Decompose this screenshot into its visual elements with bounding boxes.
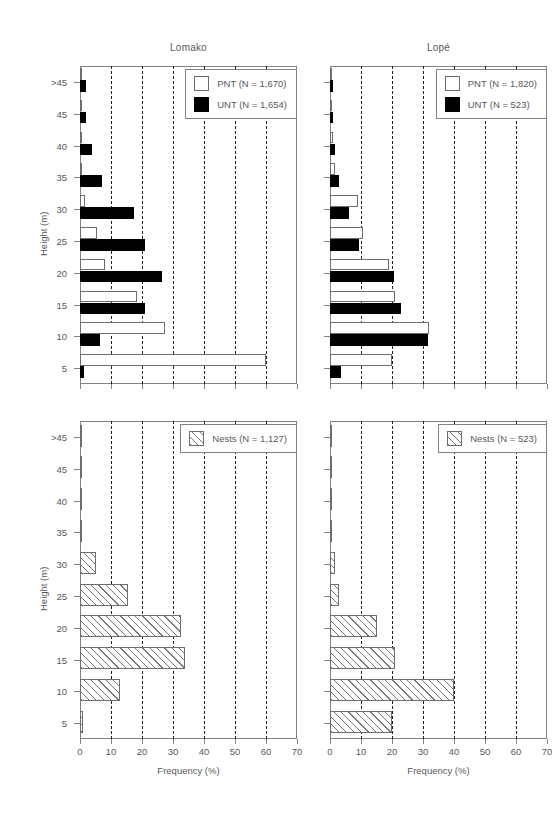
- bar-pnt-10: [330, 322, 429, 334]
- legend-lope-trees[interactable]: PNT (N = 1,820) UNT (N = 523): [436, 69, 547, 119]
- y-tick-label: 30: [56, 204, 67, 215]
- y-tick: [324, 691, 330, 692]
- legend-label-pnt: PNT (N = 1,820): [468, 78, 537, 89]
- panel-lomako-nests: 51015202530354045>45 Nests (N = 1,127) 0…: [80, 421, 297, 739]
- figure-canvas: Lomako 51015202530354045>45 PNT (N = 1,6…: [0, 0, 559, 816]
- x-tick: [111, 739, 112, 744]
- nests-swatch-icon: [189, 431, 204, 446]
- y-tick: [74, 723, 80, 724]
- bar-pnt-35: [80, 163, 82, 175]
- legend-lope-nests[interactable]: Nests (N = 523): [438, 424, 547, 453]
- bar-nest-15: [330, 647, 395, 669]
- y-tick-label: 15: [56, 299, 67, 310]
- y-tick: [324, 596, 330, 597]
- bar-unt-40: [80, 144, 92, 156]
- y-tick: [324, 469, 330, 470]
- bar-unt-5: [80, 366, 84, 378]
- bar-nest-10: [330, 679, 454, 701]
- y-tick: [324, 564, 330, 565]
- x-tick: [142, 384, 143, 389]
- x-gridline: [204, 421, 205, 739]
- bar-unt-35: [330, 175, 339, 187]
- x-tick: [235, 384, 236, 389]
- bar-pnt-45: [330, 100, 332, 112]
- x-tick-label: 60: [261, 746, 272, 757]
- x-tick: [516, 384, 517, 389]
- legend-lomako-trees[interactable]: PNT (N = 1,670) UNT (N = 1,654): [185, 69, 297, 119]
- panel-title-lomako-top: Lomako: [80, 42, 297, 53]
- x-tick: [204, 739, 205, 744]
- x-gridline: [142, 66, 143, 384]
- bar-unt->45: [330, 80, 333, 92]
- y-tick-label: 30: [56, 559, 67, 570]
- y-tick: [324, 177, 330, 178]
- x-tick-label: 60: [511, 746, 522, 757]
- bar-nest-35: [80, 520, 82, 542]
- y-tick: [324, 146, 330, 147]
- legend-entry-pnt[interactable]: PNT (N = 1,670): [194, 76, 287, 91]
- unt-swatch-icon: [445, 97, 460, 112]
- y-tick-label: 20: [56, 622, 67, 633]
- x-gridline: [516, 421, 517, 739]
- y-tick: [324, 723, 330, 724]
- y-tick: [324, 368, 330, 369]
- y-tick: [74, 305, 80, 306]
- bar-nest-5: [80, 711, 83, 733]
- panel-lomako-trees: Lomako 51015202530354045>45 PNT (N = 1,6…: [80, 66, 297, 384]
- y-tick-label: 10: [56, 331, 67, 342]
- x-tick: [516, 739, 517, 744]
- panel-title-lope-top: Lopé: [330, 42, 547, 53]
- bar-unt-15: [330, 303, 401, 315]
- legend-label-nests: Nests (N = 1,127): [212, 433, 287, 444]
- y-tick: [324, 437, 330, 438]
- panel-lope-trees: Lopé PNT (N = 1,820) UNT (N = 523): [330, 66, 547, 384]
- y-tick-label: 35: [56, 527, 67, 538]
- bar-pnt-40: [330, 132, 333, 144]
- y-tick: [324, 305, 330, 306]
- y-tick: [74, 241, 80, 242]
- legend-entry-pnt[interactable]: PNT (N = 1,820): [445, 76, 537, 91]
- bar-nest-45: [80, 456, 82, 478]
- bar-unt-30: [330, 207, 349, 219]
- x-tick-label: 20: [387, 746, 398, 757]
- bar-pnt-10: [80, 322, 165, 334]
- bar-nest-25: [80, 584, 128, 606]
- y-tick: [324, 114, 330, 115]
- bar-nest-35: [330, 520, 332, 542]
- bar-unt-45: [330, 112, 333, 124]
- bar-pnt-15: [330, 291, 395, 303]
- bar-unt-20: [330, 271, 394, 283]
- bar-unt-25: [80, 239, 145, 251]
- legend-entry-unt[interactable]: UNT (N = 1,654): [194, 97, 287, 112]
- y-tick: [74, 469, 80, 470]
- x-tick: [80, 739, 81, 744]
- x-tick: [392, 739, 393, 744]
- legend-entry-unt[interactable]: UNT (N = 523): [445, 97, 537, 112]
- x-gridline: [485, 421, 486, 739]
- x-tick-label: 0: [77, 746, 82, 757]
- y-tick: [74, 691, 80, 692]
- bar-pnt-20: [330, 259, 389, 271]
- x-tick: [297, 384, 298, 389]
- bar-pnt->45: [330, 68, 332, 80]
- legend-label-nests: Nests (N = 523): [470, 433, 537, 444]
- bar-pnt-30: [330, 195, 358, 207]
- legend-lomako-nests[interactable]: Nests (N = 1,127): [180, 424, 297, 453]
- x-tick: [173, 384, 174, 389]
- legend-entry-nests[interactable]: Nests (N = 523): [447, 431, 537, 446]
- bar-nest-20: [330, 615, 377, 637]
- bar-pnt-5: [80, 354, 266, 366]
- bar-unt-5: [330, 366, 341, 378]
- x-tick: [204, 384, 205, 389]
- y-tick-label: 45: [56, 108, 67, 119]
- unt-swatch-icon: [194, 97, 209, 112]
- y-tick: [74, 596, 80, 597]
- x-tick: [547, 384, 548, 389]
- y-tick-label: 35: [56, 172, 67, 183]
- y-tick: [324, 241, 330, 242]
- x-tick-label: 50: [480, 746, 491, 757]
- x-tick: [454, 384, 455, 389]
- x-tick: [173, 739, 174, 744]
- x-gridline: [266, 421, 267, 739]
- legend-entry-nests[interactable]: Nests (N = 1,127): [189, 431, 287, 446]
